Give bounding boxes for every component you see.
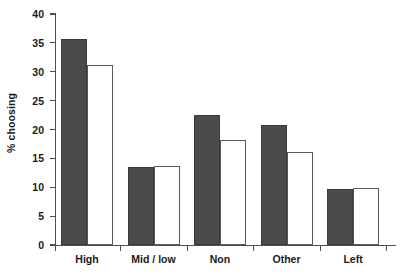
bar-high-s1 bbox=[61, 39, 87, 245]
y-axis-tick-label: 15 bbox=[0, 152, 44, 164]
x-axis-label-left: Left bbox=[343, 253, 362, 265]
y-axis-tick-label: 10 bbox=[0, 181, 44, 193]
y-axis-tick-label: 5 bbox=[0, 210, 44, 222]
x-axis-tick bbox=[386, 245, 387, 251]
bar-other-s1 bbox=[261, 125, 287, 245]
x-axis-tick bbox=[187, 245, 188, 251]
x-axis-tick bbox=[253, 245, 254, 251]
x-axis-tick bbox=[55, 245, 56, 251]
x-axis-label-high: High bbox=[75, 253, 98, 265]
bar-left-s1 bbox=[327, 189, 353, 245]
bar-non-s1 bbox=[194, 115, 220, 246]
bar-other-s2 bbox=[287, 152, 313, 245]
bar-non-s2 bbox=[220, 140, 246, 245]
bar-high-s2 bbox=[87, 65, 113, 245]
bar-left-s2 bbox=[353, 188, 379, 245]
y-axis-tick-label: 25 bbox=[0, 95, 44, 107]
y-axis-tick-label: 30 bbox=[0, 66, 44, 78]
y-axis-tick-label: 35 bbox=[0, 37, 44, 49]
bar-midlow-s1 bbox=[128, 167, 154, 245]
x-axis-tick bbox=[120, 245, 121, 251]
y-axis-tick-label: 0 bbox=[0, 239, 44, 251]
x-axis-label-midlow: Mid / low bbox=[131, 253, 175, 265]
bar-midlow-s2 bbox=[154, 166, 180, 245]
x-axis-tick bbox=[320, 245, 321, 251]
y-axis-tick-label: 20 bbox=[0, 124, 44, 136]
y-axis-tick-label: 40 bbox=[0, 8, 44, 20]
x-axis-label-other: Other bbox=[272, 253, 300, 265]
x-axis-label-non: Non bbox=[210, 253, 230, 265]
bar-chart: % choosing 0510152025303540 HighMid / lo… bbox=[0, 0, 401, 277]
plot-area bbox=[55, 14, 395, 245]
